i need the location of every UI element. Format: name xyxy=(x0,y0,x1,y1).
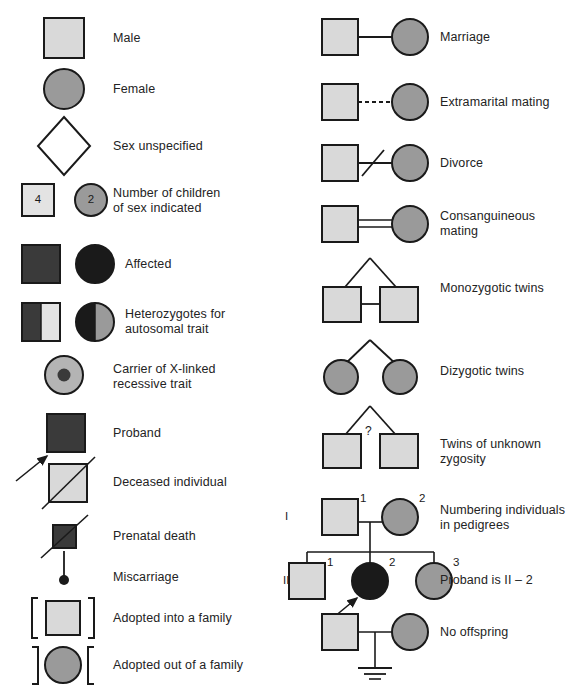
symbol-marriage xyxy=(322,19,428,55)
symbol-adopted-into-family xyxy=(32,598,94,638)
symbol-affected xyxy=(22,245,114,283)
symbol-dizygotic-twins xyxy=(324,340,417,394)
label-affected: Affected xyxy=(125,257,171,272)
symbol-female xyxy=(44,69,84,109)
label-adopted-into-family: Adopted into a family xyxy=(113,611,232,626)
symbol-miscarriage xyxy=(59,551,69,585)
symbol-consanguineous-mating xyxy=(322,206,428,242)
generation-label-I: I xyxy=(285,510,288,522)
symbol-carrier-x-linked xyxy=(45,356,83,394)
label-consanguineous-mating: Consanguineous mating xyxy=(440,209,535,238)
label-no-offspring: No offspring xyxy=(440,625,508,640)
individual-number-II-1: 1 xyxy=(327,556,333,568)
label-female: Female xyxy=(113,82,155,97)
children-count-square: 4 xyxy=(22,193,54,205)
symbol-adopted-out-of-family xyxy=(32,647,94,684)
generation-label-II: II xyxy=(283,574,289,586)
label-carrier-x-linked: Carrier of X-linked recessive trait xyxy=(113,362,216,391)
label-divorce: Divorce xyxy=(440,156,483,171)
label-twins-unknown-zygosity: Twins of unknown zygosity xyxy=(440,437,541,466)
individual-number-I-2: 2 xyxy=(419,492,425,504)
label-marriage: Marriage xyxy=(440,30,490,45)
label-dizygotic-twins: Dizygotic twins xyxy=(440,364,524,379)
symbol-male xyxy=(44,18,84,58)
label-numbering-individuals: Numbering individuals in pedigrees xyxy=(440,503,565,532)
label-heterozygotes: Heterozygotes for autosomal trait xyxy=(125,307,225,336)
symbol-heterozygotes xyxy=(22,303,114,341)
symbol-extramarital-mating xyxy=(322,84,428,120)
label-prenatal-death: Prenatal death xyxy=(113,529,196,544)
symbol-deceased-individual xyxy=(42,457,95,509)
label-proband: Proband xyxy=(113,426,161,441)
symbol-sex-unspecified xyxy=(38,117,90,175)
pedigree-legend-figure: 4 2 ? Male Female Sex unspecified Number… xyxy=(0,0,577,695)
label-deceased-individual: Deceased individual xyxy=(113,475,227,490)
label-monozygotic-twins: Monozygotic twins xyxy=(440,281,544,296)
symbol-monozygotic-twins xyxy=(323,258,418,322)
label-proband-is: Proband is II – 2 xyxy=(440,573,533,588)
question-mark-zygosity: ? xyxy=(365,424,372,438)
label-miscarriage: Miscarriage xyxy=(113,570,179,585)
label-sex-unspecified: Sex unspecified xyxy=(113,139,203,154)
symbol-no-offspring xyxy=(322,614,428,679)
children-count-circle: 2 xyxy=(75,193,107,205)
symbol-divorce xyxy=(322,145,428,181)
individual-number-II-3: 3 xyxy=(453,556,459,568)
label-male: Male xyxy=(113,31,141,46)
symbol-pedigree-example xyxy=(289,499,452,617)
label-number-of-children: Number of children of sex indicated xyxy=(113,186,220,215)
label-adopted-out-of-family: Adopted out of a family xyxy=(113,658,243,673)
label-extramarital-mating: Extramarital mating xyxy=(440,95,550,110)
individual-number-I-1: 1 xyxy=(360,492,366,504)
individual-number-II-2: 2 xyxy=(389,556,395,568)
